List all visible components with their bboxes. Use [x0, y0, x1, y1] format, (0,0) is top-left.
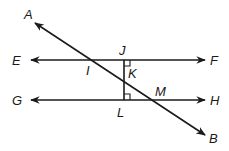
label-j: J — [118, 43, 126, 58]
label-f: F — [210, 53, 219, 68]
geometry-diagram: A B E F G H I J K L M — [0, 0, 229, 151]
right-angle-mark-l — [124, 94, 130, 100]
label-g: G — [12, 93, 22, 108]
label-b: B — [209, 131, 218, 146]
label-e: E — [12, 53, 21, 68]
label-h: H — [210, 93, 220, 108]
label-k: K — [128, 66, 138, 81]
label-m: M — [155, 84, 166, 99]
label-i: I — [86, 63, 90, 78]
label-a: A — [23, 7, 33, 22]
label-l: L — [117, 105, 124, 120]
